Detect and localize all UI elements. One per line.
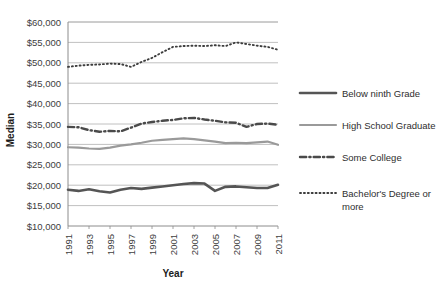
x-tick-label: 1995	[105, 234, 116, 255]
y-tick-label: $10,000	[27, 221, 61, 232]
x-tick-label: 2005	[210, 234, 221, 255]
y-tick-label: $60,000	[27, 17, 61, 28]
y-tick-label: $20,000	[27, 180, 61, 191]
x-axis-title: Year	[162, 268, 183, 279]
y-tick-label: $15,000	[27, 200, 61, 211]
legend-label-2: Some College	[342, 152, 402, 163]
legend-label-0: Below ninth Grade	[342, 88, 420, 99]
series-line-0	[68, 183, 278, 192]
y-tick-label: $50,000	[27, 57, 61, 68]
y-tick-label: $40,000	[27, 98, 61, 109]
x-tick-label: 1993	[84, 234, 95, 255]
legend: Below ninth GradeHigh School GraduateSom…	[300, 88, 435, 212]
x-tick-label: 1991	[63, 234, 74, 255]
y-tick-labels: $10,000$15,000$20,000$25,000$30,000$35,0…	[27, 17, 61, 232]
x-tick-label: 1997	[126, 234, 137, 255]
legend-label-3: Bachelor's Degree or	[342, 188, 431, 199]
series-line-3	[68, 42, 278, 66]
x-tick-label: 2003	[189, 234, 200, 255]
x-tick-label: 2007	[231, 234, 242, 255]
y-tick-label: $30,000	[27, 139, 61, 150]
y-axis-title: Median	[5, 113, 16, 147]
x-tick-label: 2011	[273, 234, 284, 254]
chart-container: $10,000$15,000$20,000$25,000$30,000$35,0…	[0, 0, 438, 287]
x-tick-labels: 1991199319951997199920012003200520072009…	[63, 226, 284, 255]
legend-label-1: High School Graduate	[342, 120, 435, 131]
x-tick-label: 1999	[147, 234, 158, 255]
y-tick-label: $45,000	[27, 78, 61, 89]
series-line-2	[68, 118, 278, 132]
legend-label-3: more	[342, 201, 364, 212]
line-chart-svg: $10,000$15,000$20,000$25,000$30,000$35,0…	[0, 0, 438, 287]
y-tick-label: $55,000	[27, 37, 61, 48]
x-tick-label: 2001	[168, 234, 179, 255]
data-series-group	[68, 42, 278, 192]
y-tick-label: $35,000	[27, 119, 61, 130]
grid-lines	[68, 22, 278, 206]
x-tick-label: 2009	[252, 234, 263, 255]
series-line-1	[68, 138, 278, 149]
y-tick-label: $25,000	[27, 159, 61, 170]
